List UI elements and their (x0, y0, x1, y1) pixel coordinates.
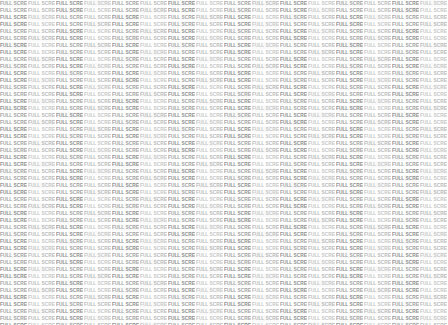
watermark-text-tile: FULL SCREEN (168, 273, 195, 280)
watermark-text-tile: FULL SCREEN (308, 77, 335, 84)
watermark-text-tile: FULL SCREEN (84, 35, 111, 42)
watermark-text-tile: FULL SCREEN (280, 98, 307, 105)
watermark-text-tile: FULL SCREEN (196, 266, 223, 273)
watermark-text-tile: FULL SCREEN (308, 49, 335, 56)
watermark-text-tile: FULL SCREEN (168, 266, 195, 273)
watermark-text-tile: FULL SCREEN (140, 119, 167, 126)
watermark-text-tile: FULL SCREEN (336, 84, 363, 91)
watermark-text-tile: FULL SCREEN (84, 0, 111, 7)
watermark-text-tile: FULL SCREEN (0, 168, 27, 175)
watermark-text-tile: FULL SCREEN (140, 21, 167, 28)
watermark-row: FULL SCREENFULL SCREENFULL SCREENFULL SC… (0, 182, 448, 189)
watermark-text-tile: FULL SCREEN (392, 42, 419, 49)
watermark-text-tile: FULL SCREEN (140, 203, 167, 210)
watermark-text-tile: FULL SCREEN (364, 175, 391, 182)
watermark-text-tile: FULL SCREEN (364, 287, 391, 294)
watermark-text-tile: FULL SCREEN (224, 175, 251, 182)
watermark-text-tile: FULL SCREEN (336, 287, 363, 294)
watermark-text-tile: FULL SCREEN (252, 315, 279, 322)
watermark-text-tile: FULL SCREEN (168, 7, 195, 14)
watermark-text-tile: FULL SCREEN (420, 168, 447, 175)
watermark-text-tile: FULL SCREEN (56, 175, 83, 182)
watermark-text-tile: FULL SCREEN (280, 308, 307, 315)
watermark-text-tile: FULL SCREEN (224, 245, 251, 252)
watermark-text-tile: FULL SCREEN (420, 119, 447, 126)
watermark-text-tile: FULL SCREEN (0, 245, 27, 252)
watermark-text-tile: FULL SCREEN (112, 203, 139, 210)
watermark-text-tile: FULL SCREEN (252, 70, 279, 77)
watermark-text-tile: FULL SCREEN (392, 0, 419, 7)
watermark-text-tile: FULL SCREEN (308, 91, 335, 98)
watermark-text-tile: FULL SCREEN (112, 294, 139, 301)
watermark-text-tile: FULL SCREEN (168, 231, 195, 238)
watermark-text-tile: FULL SCREEN (308, 301, 335, 308)
watermark-text-tile: FULL SCREEN (364, 217, 391, 224)
watermark-text-tile: FULL SCREEN (224, 56, 251, 63)
watermark-text-tile: FULL SCREEN (224, 231, 251, 238)
watermark-text-tile: FULL SCREEN (28, 77, 55, 84)
watermark-text-tile: FULL SCREEN (168, 21, 195, 28)
watermark-text-tile: FULL SCREEN (364, 189, 391, 196)
watermark-text-tile: FULL SCREEN (252, 63, 279, 70)
watermark-row: FULL SCREENFULL SCREENFULL SCREENFULL SC… (0, 42, 448, 49)
watermark-text-tile: FULL SCREEN (280, 231, 307, 238)
watermark-text-tile: FULL SCREEN (28, 42, 55, 49)
watermark-text-tile: FULL SCREEN (420, 231, 447, 238)
watermark-text-tile: FULL SCREEN (364, 0, 391, 7)
watermark-text-tile: FULL SCREEN (140, 7, 167, 14)
watermark-text-tile: FULL SCREEN (112, 91, 139, 98)
watermark-text-tile: FULL SCREEN (112, 252, 139, 259)
watermark-text-tile: FULL SCREEN (112, 273, 139, 280)
watermark-text-tile: FULL SCREEN (364, 126, 391, 133)
watermark-text-tile: FULL SCREEN (28, 49, 55, 56)
watermark-text-tile: FULL SCREEN (392, 154, 419, 161)
watermark-text-tile: FULL SCREEN (0, 231, 27, 238)
watermark-text-tile: FULL SCREEN (224, 224, 251, 231)
watermark-text-tile: FULL SCREEN (420, 175, 447, 182)
watermark-row: FULL SCREENFULL SCREENFULL SCREENFULL SC… (0, 175, 448, 182)
watermark-text-tile: FULL SCREEN (308, 308, 335, 315)
watermark-text-tile: FULL SCREEN (364, 49, 391, 56)
watermark-text-tile: FULL SCREEN (140, 147, 167, 154)
watermark-text-tile: FULL SCREEN (420, 63, 447, 70)
watermark-text-tile: FULL SCREEN (280, 0, 307, 7)
watermark-text-tile: FULL SCREEN (224, 0, 251, 7)
watermark-text-tile: FULL SCREEN (252, 7, 279, 14)
watermark-text-tile: FULL SCREEN (112, 119, 139, 126)
watermark-text-tile: FULL SCREEN (0, 210, 27, 217)
watermark-text-tile: FULL SCREEN (224, 315, 251, 322)
watermark-text-tile: FULL SCREEN (112, 140, 139, 147)
watermark-row: FULL SCREENFULL SCREENFULL SCREENFULL SC… (0, 77, 448, 84)
watermark-text-tile: FULL SCREEN (0, 161, 27, 168)
watermark-text-tile: FULL SCREEN (224, 70, 251, 77)
watermark-text-tile: FULL SCREEN (168, 84, 195, 91)
watermark-text-tile: FULL SCREEN (84, 98, 111, 105)
watermark-text-tile: FULL SCREEN (28, 294, 55, 301)
watermark-text-tile: FULL SCREEN (112, 175, 139, 182)
watermark-row: FULL SCREENFULL SCREENFULL SCREENFULL SC… (0, 112, 448, 119)
watermark-text-tile: FULL SCREEN (112, 98, 139, 105)
watermark-text-tile: FULL SCREEN (168, 105, 195, 112)
watermark-text-tile: FULL SCREEN (56, 308, 83, 315)
watermark-text-tile: FULL SCREEN (140, 273, 167, 280)
watermark-text-tile: FULL SCREEN (112, 259, 139, 266)
watermark-text-tile: FULL SCREEN (252, 147, 279, 154)
watermark-text-tile: FULL SCREEN (336, 14, 363, 21)
watermark-text-tile: FULL SCREEN (420, 210, 447, 217)
watermark-text-tile: FULL SCREEN (224, 182, 251, 189)
watermark-text-tile: FULL SCREEN (308, 280, 335, 287)
watermark-text-tile: FULL SCREEN (112, 217, 139, 224)
watermark-text-tile: FULL SCREEN (224, 119, 251, 126)
watermark-text-tile: FULL SCREEN (308, 21, 335, 28)
watermark-text-tile: FULL SCREEN (168, 63, 195, 70)
watermark-text-tile: FULL SCREEN (140, 42, 167, 49)
watermark-text-tile: FULL SCREEN (168, 203, 195, 210)
watermark-text-tile: FULL SCREEN (308, 35, 335, 42)
watermark-text-tile: FULL SCREEN (84, 203, 111, 210)
watermark-text-tile: FULL SCREEN (140, 105, 167, 112)
watermark-text-tile: FULL SCREEN (196, 77, 223, 84)
watermark-text-tile: FULL SCREEN (252, 119, 279, 126)
watermark-text-tile: FULL SCREEN (308, 119, 335, 126)
watermark-text-tile: FULL SCREEN (420, 147, 447, 154)
watermark-text-tile: FULL SCREEN (56, 98, 83, 105)
